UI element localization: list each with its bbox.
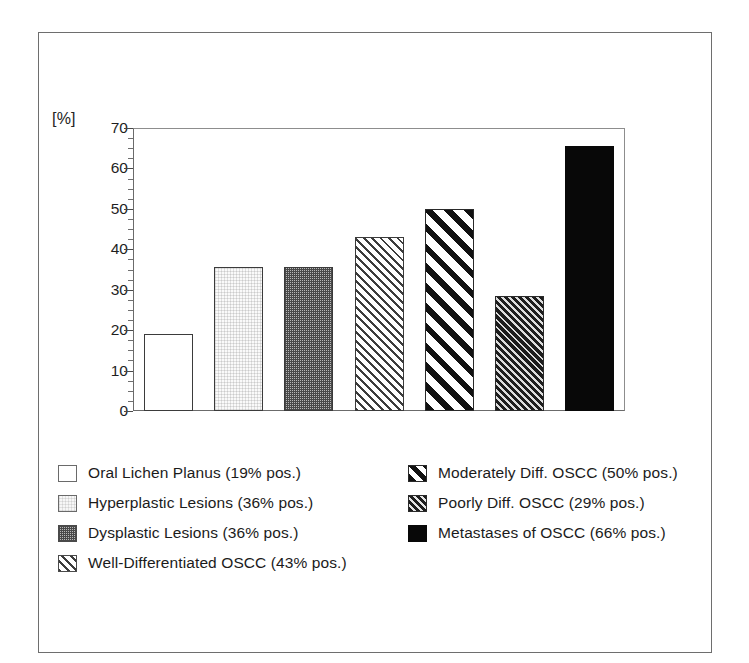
legend-item: Well-Differentiated OSCC (43% pos.) — [58, 548, 398, 578]
legend-item: Oral Lichen Planus (19% pos.) — [58, 458, 398, 488]
legend-swatch-icon — [58, 495, 77, 512]
legend-item-label: Oral Lichen Planus (19% pos.) — [88, 464, 301, 482]
legend-swatch-icon — [58, 555, 77, 572]
legend-item: Metastases of OSCC (66% pos.) — [408, 518, 728, 548]
chart-legend: Oral Lichen Planus (19% pos.)Hyperplasti… — [0, 0, 749, 663]
legend-item: Hyperplastic Lesions (36% pos.) — [58, 488, 398, 518]
legend-item: Moderately Diff. OSCC (50% pos.) — [408, 458, 728, 488]
legend-swatch-icon — [408, 525, 427, 542]
legend-swatch-icon — [58, 525, 77, 542]
legend-item: Dysplastic Lesions (36% pos.) — [58, 518, 398, 548]
legend-swatch-icon — [58, 465, 77, 482]
legend-column-right: Moderately Diff. OSCC (50% pos.)Poorly D… — [408, 458, 728, 548]
legend-item-label: Metastases of OSCC (66% pos.) — [438, 524, 666, 542]
legend-item-label: Hyperplastic Lesions (36% pos.) — [88, 494, 313, 512]
legend-item-label: Well-Differentiated OSCC (43% pos.) — [88, 554, 347, 572]
legend-item-label: Poorly Diff. OSCC (29% pos.) — [438, 494, 645, 512]
figure-canvas: [%] 010203040506070 Oral Lichen Planus (… — [0, 0, 749, 663]
legend-swatch-icon — [408, 495, 427, 512]
legend-swatch-icon — [408, 465, 427, 482]
legend-column-left: Oral Lichen Planus (19% pos.)Hyperplasti… — [58, 458, 398, 578]
legend-item-label: Dysplastic Lesions (36% pos.) — [88, 524, 299, 542]
legend-item: Poorly Diff. OSCC (29% pos.) — [408, 488, 728, 518]
legend-item-label: Moderately Diff. OSCC (50% pos.) — [438, 464, 678, 482]
